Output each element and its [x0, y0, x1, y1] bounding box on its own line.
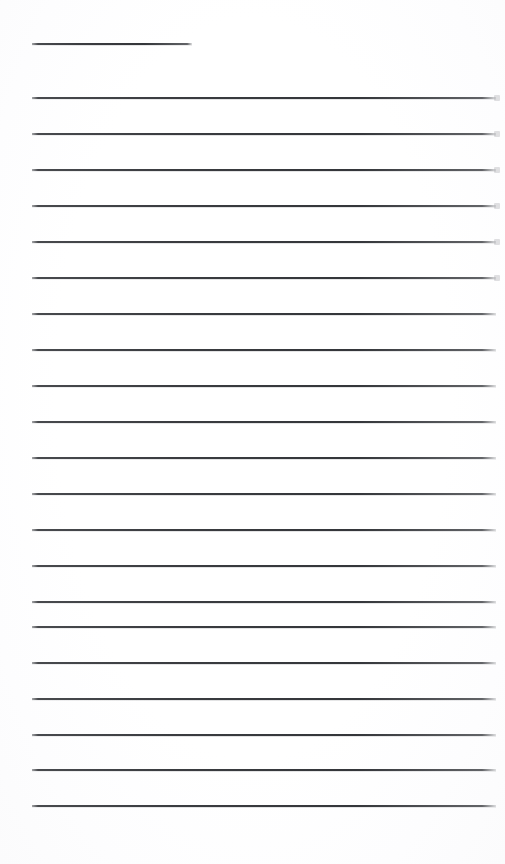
- heading-underline: [32, 43, 192, 45]
- ruled-line: [32, 565, 496, 567]
- document-page: [0, 0, 505, 864]
- ruled-line: [32, 313, 496, 315]
- ruled-line: [32, 493, 496, 495]
- ruled-line: [32, 205, 496, 207]
- ruled-line: [32, 698, 496, 700]
- ruled-line: [32, 769, 496, 771]
- ruled-lines-layer: [0, 0, 505, 864]
- ruled-line: [32, 385, 496, 387]
- ruled-line: [32, 805, 496, 807]
- ruled-line: [32, 133, 496, 135]
- ruled-line: [32, 529, 496, 531]
- ruled-line: [32, 241, 496, 243]
- ruled-line: [32, 626, 496, 628]
- ruled-line: [32, 457, 496, 459]
- ruled-line: [32, 734, 496, 736]
- ruled-line: [32, 349, 496, 351]
- ruled-line: [32, 169, 496, 171]
- ruled-line: [32, 97, 496, 99]
- ruled-line: [32, 421, 496, 423]
- ruled-line: [32, 662, 496, 664]
- ruled-line: [32, 277, 496, 279]
- ruled-line: [32, 601, 496, 603]
